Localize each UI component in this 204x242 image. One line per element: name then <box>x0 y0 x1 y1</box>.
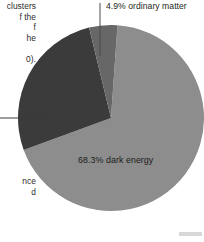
pie-chart-figure: clusters f the f he 0). nce d 4.9% ordin… <box>0 0 204 242</box>
slice-label-dark-energy: 68.3% dark energy <box>78 155 153 165</box>
pie-chart-svg <box>0 0 204 242</box>
page-edge-artifact <box>179 232 202 236</box>
slice-label-ordinary-matter: 4.9% ordinary matter <box>106 1 187 11</box>
